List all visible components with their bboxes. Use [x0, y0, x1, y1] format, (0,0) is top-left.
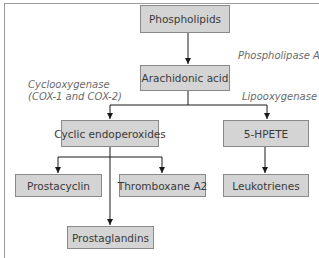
- enzyme-label-cyclooxygenase: Cyclooxygenase (COX-1 and COX-2): [28, 79, 108, 103]
- enzyme-label-line: Cyclooxygenase: [28, 79, 108, 91]
- node-label: Arachidonic acid: [142, 72, 229, 84]
- node-label: 5-HPETE: [244, 128, 288, 140]
- node-label: Phospholipids: [149, 13, 221, 25]
- node-5-hpete: 5-HPETE: [223, 120, 309, 147]
- enzyme-label-lipooxygenase: Lipooxygenase: [242, 91, 317, 103]
- node-label: Leukotrienes: [232, 180, 299, 192]
- enzyme-label-phospholipase: Phospholipase A2: [238, 50, 319, 62]
- node-phospholipids: Phospholipids: [140, 5, 230, 33]
- node-label: Prostacyclin: [27, 180, 90, 192]
- node-cyclic-endoperoxides: Cyclic endoperoxides: [61, 120, 159, 147]
- node-leukotrienes: Leukotrienes: [223, 174, 309, 197]
- node-thromboxane-a2: Thromboxane A2: [119, 174, 206, 197]
- node-label: Thromboxane A2: [118, 180, 208, 192]
- node-arachidonic-acid: Arachidonic acid: [140, 65, 230, 91]
- node-label: Prostaglandins: [72, 232, 149, 244]
- enzyme-label-line: (COX-1 and COX-2): [28, 91, 108, 103]
- node-label: Cyclic endoperoxides: [54, 128, 166, 140]
- node-prostacyclin: Prostacyclin: [15, 174, 102, 197]
- node-prostaglandins: Prostaglandins: [67, 226, 154, 249]
